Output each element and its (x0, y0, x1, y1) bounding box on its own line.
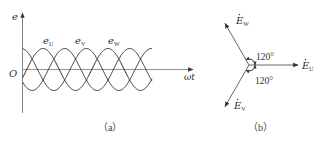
phasor-labels: EUEWEV (233, 14, 314, 112)
wave-label-u: eU (43, 35, 54, 47)
y-axis-label: e (12, 11, 18, 22)
phasor-label-w: EW (235, 15, 249, 27)
wave-label-w: eW (108, 35, 120, 47)
wave-label-v: eV (75, 35, 86, 47)
phasor-dot-v (237, 99, 238, 100)
phasor-label-v: EV (233, 100, 246, 112)
angle-label-upper: 120° (256, 52, 274, 62)
phasor-dot-w (239, 14, 240, 15)
phasor-group (225, 23, 298, 106)
x-axis-label: ωt (184, 72, 195, 82)
phasor-label-u: EU (301, 60, 314, 72)
origin-label: O (9, 68, 17, 79)
caption-a: （a） (98, 122, 122, 133)
waveform-figure: e O ωt eUeVeW （a） (9, 11, 195, 133)
phasor-w (225, 23, 249, 65)
caption-b: （b） (248, 122, 273, 133)
wave-labels: eUeVeW (43, 35, 120, 47)
figure-canvas: e O ωt eUeVeW （a） 120° 120° EUEWEV （b） (0, 0, 322, 144)
phasor-figure: 120° 120° EUEWEV （b） (225, 14, 314, 133)
angle-label-lower: 120° (255, 76, 273, 86)
phasor-dot-u (305, 59, 306, 60)
